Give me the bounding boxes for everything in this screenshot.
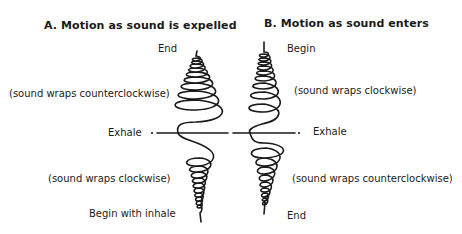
exhale-line-a: [151, 132, 228, 134]
spiral-a-upper: [175, 51, 222, 133]
exhale-line-b: [233, 132, 300, 134]
spiral-b-lower: [250, 133, 284, 214]
spiral-b-upper: [249, 42, 280, 133]
spiral-a-lower: [178, 133, 214, 222]
spiral-diagram: [0, 0, 462, 234]
